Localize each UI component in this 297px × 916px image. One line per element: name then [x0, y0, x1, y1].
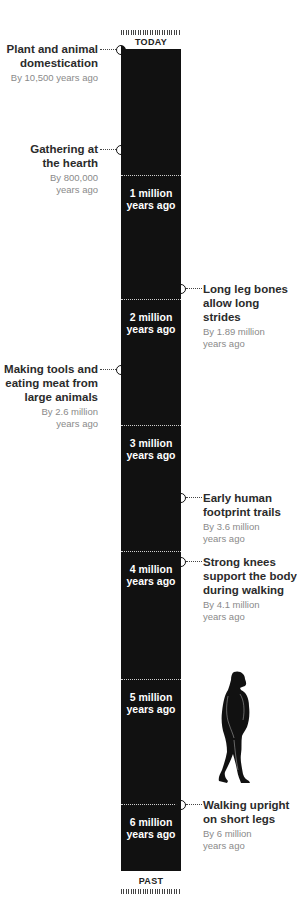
million-label-line: 6 million — [121, 816, 181, 828]
bottom-tick-marks — [121, 889, 181, 894]
million-divider-4 — [121, 551, 181, 552]
timeline-bar: 1 million years ago 2 million years ago … — [121, 49, 181, 871]
leader-line — [186, 497, 202, 498]
event-marker-icon — [116, 145, 126, 155]
event-title: the hearth — [0, 156, 98, 170]
event-title: support the body — [203, 569, 297, 583]
event-title: Walking upright — [203, 798, 297, 812]
million-divider-1 — [121, 175, 181, 176]
event-marker-icon — [176, 800, 186, 810]
million-label-line: 1 million — [121, 187, 181, 199]
past-label: PAST — [121, 876, 181, 886]
event-marker-icon — [176, 284, 186, 294]
million-label-1: 1 million years ago — [121, 187, 181, 211]
event-title: footprint trails — [203, 505, 297, 519]
million-label-6: 6 million years ago — [121, 816, 181, 840]
event-footprint-trails: Early human footprint trails By 3.6 mill… — [203, 491, 297, 544]
million-label-line: years ago — [121, 199, 181, 211]
event-title: allow long strides — [203, 296, 297, 324]
event-date: By 10,500 years ago — [0, 72, 98, 84]
million-label-line: 2 million — [121, 311, 181, 323]
million-label-line: years ago — [121, 828, 181, 840]
million-divider-3 — [121, 425, 181, 426]
million-label-5: 5 million years ago — [121, 691, 181, 715]
event-marker-icon — [176, 557, 186, 567]
event-date: By 3.6 million — [203, 521, 297, 533]
million-divider-6 — [121, 804, 181, 805]
event-title: on short legs — [203, 812, 297, 826]
event-date: years ago — [203, 533, 297, 545]
event-date: years ago — [0, 418, 98, 430]
leader-line — [186, 561, 202, 562]
million-label-3: 3 million years ago — [121, 437, 181, 461]
event-marker-icon — [116, 45, 126, 55]
event-date: years ago — [203, 840, 297, 852]
event-long-leg-bones: Long leg bones allow long strides By 1.8… — [203, 282, 297, 349]
today-label: TODAY — [121, 37, 181, 47]
event-marker-icon — [176, 493, 186, 503]
event-date: By 1.89 million — [203, 326, 297, 338]
leader-line — [100, 49, 116, 50]
million-label-line: 3 million — [121, 437, 181, 449]
early-hominid-silhouette-icon — [214, 670, 256, 788]
event-date: By 4.1 million — [203, 599, 297, 611]
event-title: Strong knees — [203, 555, 297, 569]
leader-line — [100, 369, 116, 370]
event-title: Gathering at — [0, 142, 98, 156]
event-plant-animal-domestication: Plant and animal domestication By 10,500… — [0, 42, 98, 84]
event-title: Making tools and — [0, 362, 98, 376]
million-divider-2 — [121, 299, 181, 300]
event-making-tools: Making tools and eating meat from large … — [0, 362, 98, 429]
event-title: large animals — [0, 390, 98, 404]
event-strong-knees: Strong knees support the body during wal… — [203, 555, 297, 622]
event-gathering-hearth: Gathering at the hearth By 800,000 years… — [0, 142, 98, 195]
million-label-line: 4 million — [121, 563, 181, 575]
leader-line — [186, 804, 202, 805]
event-title: eating meat from — [0, 376, 98, 390]
million-label-line: years ago — [121, 575, 181, 587]
event-title: Plant and animal — [0, 42, 98, 56]
million-label-line: years ago — [121, 323, 181, 335]
event-title: Long leg bones — [203, 282, 297, 296]
leader-line — [100, 149, 116, 150]
leader-line — [186, 288, 202, 289]
million-label-line: years ago — [121, 449, 181, 461]
event-date: By 800,000 — [0, 172, 98, 184]
event-walking-upright: Walking upright on short legs By 6 milli… — [203, 798, 297, 851]
event-title: during walking — [203, 583, 297, 597]
million-label-line: years ago — [121, 703, 181, 715]
top-tick-marks — [121, 30, 181, 35]
event-date: years ago — [0, 184, 98, 196]
million-label-4: 4 million years ago — [121, 563, 181, 587]
million-label-line: 5 million — [121, 691, 181, 703]
million-label-2: 2 million years ago — [121, 311, 181, 335]
million-divider-5 — [121, 679, 181, 680]
event-date: By 6 million — [203, 828, 297, 840]
event-title: domestication — [0, 56, 98, 70]
event-date: years ago — [203, 338, 297, 350]
event-title: Early human — [203, 491, 297, 505]
event-marker-icon — [116, 365, 126, 375]
event-date: years ago — [203, 611, 297, 623]
event-date: By 2.6 million — [0, 406, 98, 418]
